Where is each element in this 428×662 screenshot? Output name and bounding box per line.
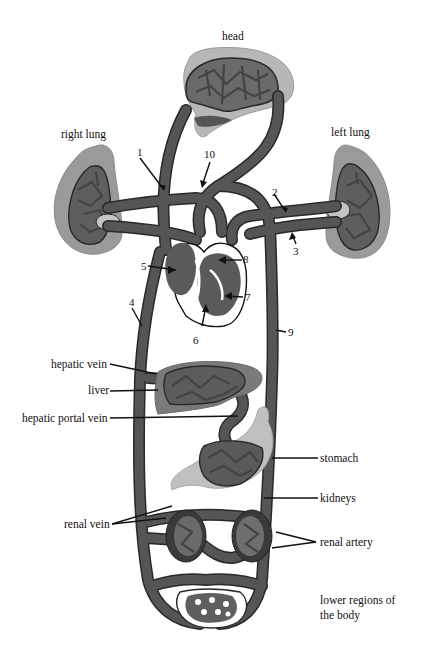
label-liver: liver <box>88 384 109 396</box>
label-left-lung: left lung <box>331 126 370 139</box>
lower-body-capillaries <box>177 589 247 628</box>
label-renal-vein: renal vein <box>64 518 110 530</box>
number-label-10: 10 <box>204 148 216 160</box>
label-renal-artery: renal artery <box>320 536 373 549</box>
label-stomach: stomach <box>320 452 359 464</box>
number-label-4: 4 <box>129 296 135 308</box>
stomach-organ <box>171 407 273 490</box>
label-hepatic-vein: hepatic vein <box>51 358 107 371</box>
circulatory-diagram: head right lung left lung hepatic vein l… <box>0 0 428 662</box>
number-label-3: 3 <box>293 245 299 257</box>
number-label-2: 2 <box>272 186 278 198</box>
label-hepatic-portal-vein: hepatic portal vein <box>22 412 108 425</box>
number-label-9: 9 <box>288 326 294 338</box>
number-label-5: 5 <box>141 260 147 272</box>
heart-organ <box>165 243 246 327</box>
label-lower-regions-line1: lower regions of <box>320 594 396 607</box>
number-label-6: 6 <box>193 334 199 346</box>
number-label-8: 8 <box>243 253 249 265</box>
label-lower-regions-line2: the body <box>320 609 360 622</box>
number-label-1: 1 <box>137 146 143 158</box>
label-head: head <box>222 30 244 42</box>
right-lung-organ <box>54 145 122 254</box>
label-kidneys: kidneys <box>320 492 356 505</box>
number-label-7: 7 <box>245 291 251 303</box>
vessel-network <box>108 96 336 624</box>
label-right-lung: right lung <box>61 128 106 141</box>
